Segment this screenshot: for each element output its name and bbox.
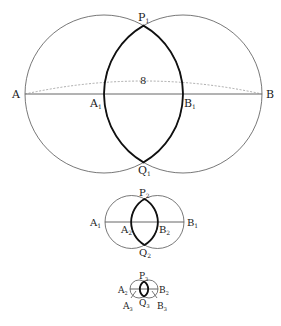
label-p2: P2 bbox=[139, 187, 150, 199]
label-a3: A3 bbox=[122, 301, 133, 312]
label-q1: Q1 bbox=[138, 164, 151, 177]
label-q2: Q2 bbox=[139, 247, 151, 259]
label-q3: Q3 bbox=[139, 298, 150, 309]
label-b1-stage2: B1 bbox=[187, 217, 198, 229]
stage-1: 8 A B A1 B1 P1 Q1 bbox=[11, 11, 274, 177]
label-b1: B1 bbox=[184, 97, 196, 110]
label-a1: A1 bbox=[89, 97, 102, 110]
label-b2-stage3: B2 bbox=[159, 285, 169, 296]
label-a: A bbox=[11, 88, 21, 101]
label-p1: P1 bbox=[138, 11, 149, 24]
label-a2-stage3: A2 bbox=[117, 285, 128, 296]
stage-2: A1 B1 A2 B2 P2 Q2 bbox=[89, 187, 198, 259]
label-b2: B2 bbox=[159, 224, 170, 236]
stage-3: A2 B2 A3 B3 P3 Q3 bbox=[117, 271, 169, 312]
label-b: B bbox=[266, 88, 274, 101]
label-p3: P3 bbox=[139, 271, 148, 282]
lens-construction-diagram: 8 A B A1 B1 P1 Q1 A1 B1 A2 B2 P2 Q2 A2 B… bbox=[0, 0, 281, 326]
label-a2: A2 bbox=[120, 224, 132, 236]
label-a1-stage2: A1 bbox=[89, 217, 101, 229]
label-b3: B3 bbox=[157, 301, 167, 312]
arc-label: 8 bbox=[140, 75, 146, 86]
